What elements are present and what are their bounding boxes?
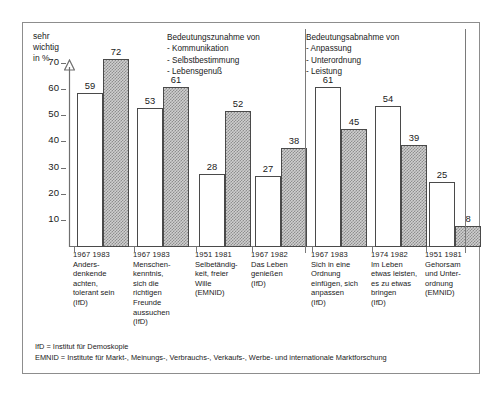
bar-group-4: 2738 <box>255 43 307 247</box>
y-tick-mark-10 <box>61 220 66 221</box>
x-label-2: 1967 1983Menschen- kenntnis, sich die ri… <box>133 250 191 327</box>
y-tick-mark-20 <box>61 194 66 195</box>
x-label-years-5: 1967 1983 <box>311 250 369 260</box>
plot-area: 597253612852273861455439258 <box>69 43 469 247</box>
bar-value-3-2: 52 <box>218 98 258 109</box>
bar-group-6: 5439 <box>375 43 427 247</box>
y-tick-mark-50 <box>61 115 66 116</box>
bar-4-2[interactable] <box>281 148 307 247</box>
chart-figure: sehr wichtig in % 70605040302010 Bedeutu… <box>22 22 480 374</box>
x-label-caption-1: Anders- denkende achten, tolerant sein (… <box>73 260 131 308</box>
bar-1-1[interactable] <box>77 93 103 247</box>
x-label-caption-6: Im Leben etwas leisten, es zu etwas brin… <box>371 260 429 308</box>
bar-group-7: 258 <box>429 43 481 247</box>
bar-value-5-1: 61 <box>308 74 348 85</box>
section-divider-right <box>465 29 466 253</box>
bar-6-2[interactable] <box>401 145 427 247</box>
bar-value-1-2: 72 <box>96 46 136 57</box>
bar-5-2[interactable] <box>341 129 367 247</box>
x-label-years-3: 1951 1981 <box>195 250 253 260</box>
x-label-years-7: 1951 1981 <box>425 250 483 260</box>
section-divider-middle <box>305 29 306 253</box>
bar-value-7-2: 8 <box>448 213 488 224</box>
footnote-emnid: EMNID = Institute für Markt-, Meinungs-,… <box>35 352 387 363</box>
bar-1-2[interactable] <box>103 59 129 247</box>
x-label-1: 1967 1983Anders- denkende achten, tolera… <box>73 250 131 308</box>
y-tick-mark-40 <box>61 141 66 142</box>
x-label-caption-5: Sich in eine Ordnung einfügen, sich anpa… <box>311 260 369 308</box>
section-decrease-title: Bedeutungsabnahme von <box>306 32 399 43</box>
y-tick-label-30: 30 <box>31 161 59 172</box>
x-label-caption-2: Menschen- kenntnis, sich die richtigen F… <box>133 260 191 327</box>
bar-group-1: 5972 <box>77 43 129 247</box>
bar-value-5-2: 45 <box>334 116 374 127</box>
x-label-3: 1951 1981Selbetändig- keit, freier Wille… <box>195 250 253 298</box>
x-label-years-1: 1967 1983 <box>73 250 131 260</box>
x-label-years-4: 1967 1982 <box>251 250 309 260</box>
x-label-4: 1967 1982Das Leben genießen (IfD) <box>251 250 309 288</box>
bar-2-1[interactable] <box>137 108 163 247</box>
bar-value-6-1: 54 <box>368 93 408 104</box>
bar-group-3: 2852 <box>199 43 251 247</box>
bar-4-1[interactable] <box>255 176 281 247</box>
x-label-years-6: 1974 1982 <box>371 250 429 260</box>
bar-group-5: 6145 <box>315 43 367 247</box>
footnote-ifd: IfD = Institut für Demoskopie <box>35 341 387 352</box>
y-tick-mark-70 <box>61 63 66 64</box>
x-label-7: 1951 1981Gehorsam und Unter- ordnung (EM… <box>425 250 483 298</box>
bar-value-2-2: 61 <box>156 74 196 85</box>
bar-2-2[interactable] <box>163 87 189 247</box>
bar-value-6-2: 39 <box>394 132 434 143</box>
y-tick-label-50: 50 <box>31 108 59 119</box>
bar-6-1[interactable] <box>375 106 401 247</box>
y-tick-label-70: 70 <box>31 56 59 67</box>
bar-5-1[interactable] <box>315 87 341 247</box>
y-tick-label-60: 60 <box>31 82 59 93</box>
footnotes: IfD = Institut für Demoskopie EMNID = In… <box>35 341 387 363</box>
bar-value-4-2: 38 <box>274 135 314 146</box>
x-axis-labels: 1967 1983Anders- denkende achten, tolera… <box>69 250 475 350</box>
section-increase-title: Bedeutungszunahme von <box>167 32 260 43</box>
x-label-caption-3: Selbetändig- keit, freier Wille (EMNID) <box>195 260 253 298</box>
bar-3-2[interactable] <box>225 111 251 247</box>
y-tick-label-10: 10 <box>31 213 59 224</box>
bar-3-1[interactable] <box>199 174 225 247</box>
x-label-caption-4: Das Leben genießen (IfD) <box>251 260 309 289</box>
bar-group-2: 5361 <box>137 43 189 247</box>
y-tick-mark-30 <box>61 168 66 169</box>
bar-value-7-1: 25 <box>422 169 462 180</box>
x-label-6: 1974 1982Im Leben etwas leisten, es zu e… <box>371 250 429 308</box>
x-label-years-2: 1967 1983 <box>133 250 191 260</box>
bar-7-2[interactable] <box>455 226 481 247</box>
x-label-caption-7: Gehorsam und Unter- ordnung (EMNID) <box>425 260 483 298</box>
y-tick-mark-60 <box>61 89 66 90</box>
y-tick-label-40: 40 <box>31 134 59 145</box>
y-tick-label-20: 20 <box>31 187 59 198</box>
x-label-5: 1967 1983Sich in eine Ordnung einfügen, … <box>311 250 369 308</box>
